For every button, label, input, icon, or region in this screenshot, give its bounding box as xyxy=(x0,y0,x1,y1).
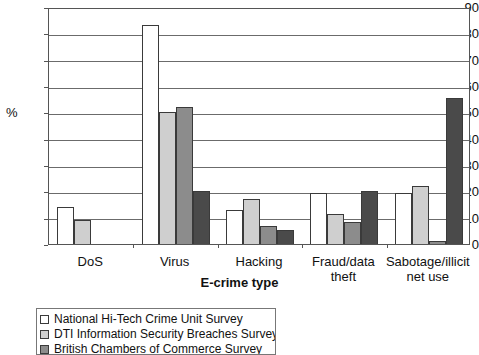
x-tick-mark xyxy=(218,244,219,248)
bar xyxy=(226,210,243,244)
legend-label: National Hi-Tech Crime Unit Survey xyxy=(54,313,243,326)
bar xyxy=(74,220,91,244)
bar xyxy=(310,193,327,244)
bar-group xyxy=(387,9,471,244)
bar-group xyxy=(133,9,217,244)
e-crime-bar-chart: 9080706050403020100 % DoSVirusHackingFra… xyxy=(0,0,479,355)
bar xyxy=(344,222,361,244)
bar xyxy=(57,207,74,244)
bar xyxy=(243,199,260,244)
legend-item: DTI Information Security Breaches Survey xyxy=(40,327,272,341)
y-tick-mark xyxy=(44,245,48,246)
bar xyxy=(361,191,378,244)
bar xyxy=(176,107,193,244)
bar xyxy=(395,193,412,244)
legend-item: British Chambers of Commerce Survey xyxy=(40,342,272,355)
x-category-label: Virus xyxy=(132,254,216,269)
x-tick-mark xyxy=(302,244,303,248)
legend-item: National Hi-Tech Crime Unit Survey xyxy=(40,312,272,326)
legend-swatch xyxy=(40,330,49,339)
x-tick-mark xyxy=(387,244,388,248)
bar-group xyxy=(49,9,133,244)
bar-group xyxy=(218,9,302,244)
x-tick-label: Virus xyxy=(132,254,216,269)
legend-label: DTI Information Security Breaches Survey xyxy=(54,328,276,341)
bar xyxy=(277,230,294,244)
x-category-label: DoS xyxy=(48,254,132,269)
legend-label: British Chambers of Commerce Survey xyxy=(54,343,262,355)
legend-swatch xyxy=(40,315,49,324)
x-axis-title: E-crime type xyxy=(0,275,479,290)
x-tick-label: DoS xyxy=(48,254,132,269)
legend-swatch xyxy=(40,345,49,354)
plot-area xyxy=(48,8,470,245)
bar xyxy=(327,214,344,244)
x-tick-label: Fraud/data xyxy=(301,254,385,269)
bar xyxy=(260,226,277,244)
bar-group xyxy=(302,9,386,244)
x-tick-label: Sabotage/illicit xyxy=(386,254,470,269)
bar xyxy=(412,186,429,244)
bar xyxy=(446,98,463,244)
bar xyxy=(142,25,159,244)
x-tick-mark xyxy=(133,244,134,248)
chart-legend: National Hi-Tech Crime Unit SurveyDTI In… xyxy=(36,308,276,355)
x-tick-label: Hacking xyxy=(217,254,301,269)
x-category-label: Hacking xyxy=(217,254,301,269)
bar xyxy=(429,241,446,244)
bar xyxy=(193,191,210,244)
y-axis-title: % xyxy=(6,106,18,119)
bar xyxy=(159,112,176,244)
